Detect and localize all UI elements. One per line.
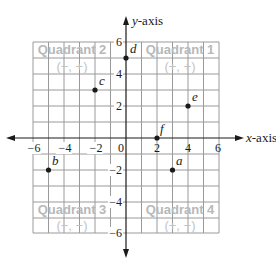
coordinate-plane: Quadrant 2 (−, +) Quadrant 1 (+, +) Quad…	[0, 0, 276, 264]
quadrant-2-title: Quadrant 2	[38, 42, 107, 57]
point-e-label: e	[192, 89, 198, 104]
x-tick-label: 2	[154, 141, 160, 155]
x-tick-label: −4	[59, 141, 72, 155]
x-tick-label: 6	[215, 141, 221, 155]
quadrant-4-signs: (+, −)	[164, 218, 195, 233]
point-d-dot	[123, 55, 128, 60]
y-tick-label: −2	[109, 163, 122, 177]
origin-label: 0	[118, 141, 124, 155]
quadrant-2-signs: (−, +)	[56, 59, 87, 74]
quadrant-3-signs: (−, −)	[56, 218, 87, 233]
point-a-label: a	[176, 153, 183, 168]
point-d-label: d	[130, 41, 137, 56]
y-tick-label: −4	[109, 195, 122, 209]
point-f-dot	[154, 135, 159, 140]
y-axis	[123, 16, 129, 258]
y-tick-label: −6	[109, 226, 122, 240]
point-b-label: b	[52, 153, 59, 168]
point-a-dot	[170, 167, 175, 172]
quadrant-3-title: Quadrant 3	[38, 202, 107, 217]
x-tick-label: −6	[28, 141, 41, 155]
point-f-label: f	[160, 121, 166, 136]
y-tick-label: 6	[116, 35, 122, 49]
x-axis	[6, 135, 244, 141]
x-axis-title: x-axis	[245, 130, 276, 145]
y-axis-up-arrow-icon	[123, 16, 129, 25]
y-tick-label: 2	[116, 99, 122, 113]
quadrant-1-signs: (+, +)	[164, 59, 195, 74]
quadrant-4-title: Quadrant 4	[146, 202, 215, 217]
point-c-label: c	[99, 73, 105, 88]
quadrant-1-title: Quadrant 1	[146, 42, 215, 57]
y-axis-down-arrow-icon	[123, 249, 129, 258]
y-axis-title: y-axis	[130, 13, 163, 28]
x-tick-label: 4	[185, 141, 191, 155]
x-tick-label: −2	[90, 141, 103, 155]
x-axis-left-arrow-icon	[6, 135, 15, 141]
point-e-dot	[185, 103, 190, 108]
point-c-dot	[92, 87, 97, 92]
y-tick-label: 4	[116, 67, 122, 81]
x-axis-right-arrow-icon	[235, 135, 244, 141]
point-b-dot	[46, 167, 51, 172]
